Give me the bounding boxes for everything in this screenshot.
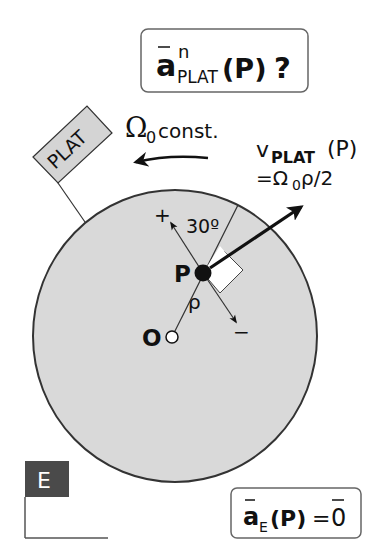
result-equals: =	[312, 506, 330, 531]
result-box: a E (P) = 0	[231, 488, 361, 538]
angle-label: 30º	[186, 215, 219, 237]
accel-superscript: n	[178, 41, 189, 62]
point-o-label: O	[142, 325, 162, 351]
radius-label: ρ	[188, 290, 201, 314]
velocity-label: v PLAT (P) =Ω 0 ρ/2	[256, 136, 357, 193]
point-p-label: P	[174, 261, 191, 287]
result-argument: (P)	[270, 506, 306, 531]
flag-pole	[58, 183, 85, 222]
angular-velocity-label: Ω 0 const.	[125, 112, 219, 162]
accel-subscript: PLAT	[177, 67, 218, 87]
rotation-arrow-icon	[136, 157, 208, 162]
platform-flag: PLAT	[33, 106, 112, 222]
velocity-equation-suffix: ρ/2	[301, 166, 333, 190]
diagram-canvas: a n PLAT (P) ? PLAT Ω 0 const. v PLAT (P…	[0, 0, 383, 550]
frame-label: E	[37, 468, 51, 493]
question-box: a n PLAT (P) ?	[141, 29, 308, 92]
velocity-symbol: v	[256, 137, 269, 162]
velocity-argument: (P)	[327, 136, 357, 161]
result-symbol: a	[243, 503, 259, 531]
velocity-equation-prefix: =Ω	[256, 166, 288, 190]
accel-argument: (P)	[222, 53, 266, 84]
velocity-subscript: PLAT	[271, 148, 315, 167]
result-zero: 0	[331, 504, 346, 532]
question-mark: ?	[274, 51, 291, 85]
plus-sign: +	[154, 203, 171, 227]
point-o	[166, 331, 178, 343]
omega-const-note: const.	[158, 119, 219, 143]
minus-sign: −	[233, 320, 250, 344]
omega-symbol: Ω	[125, 112, 147, 143]
omega-subscript: 0	[146, 128, 156, 147]
velocity-equation-subscript: 0	[292, 177, 301, 193]
accel-symbol: a	[156, 48, 176, 83]
result-subscript: E	[259, 519, 268, 535]
earth-frame: E	[25, 461, 108, 538]
point-p	[195, 265, 212, 282]
